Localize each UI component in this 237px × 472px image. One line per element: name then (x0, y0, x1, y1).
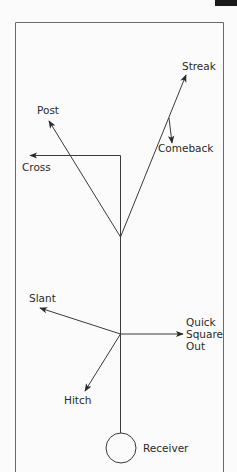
slant-route (40, 308, 121, 334)
post-route (49, 121, 121, 237)
hitch-label: Hitch (64, 394, 91, 406)
quick-label: Quick (186, 316, 217, 328)
cross-label: Cross (22, 161, 51, 173)
out-label: Out (186, 340, 205, 352)
route-tree-diagram: Streak Comeback Post Cross Slant Quick S… (0, 0, 237, 472)
receiver-label: Receiver (143, 442, 189, 454)
comeback-label: Comeback (158, 142, 214, 154)
slant-label: Slant (29, 292, 56, 304)
square-label: Square (186, 328, 223, 340)
streak-label: Streak (182, 60, 217, 72)
diagram-svg: Streak Comeback Post Cross Slant Quick S… (0, 0, 237, 472)
post-label: Post (37, 104, 59, 116)
field-border (16, 23, 224, 472)
receiver-circle (106, 433, 136, 463)
comeback-route (169, 118, 172, 143)
hitch-route (85, 334, 121, 391)
streak-route (121, 75, 187, 237)
